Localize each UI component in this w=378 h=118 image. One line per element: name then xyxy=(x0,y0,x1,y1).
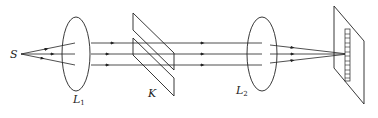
label-lens1: L1 xyxy=(72,93,85,107)
label-lens2: L2 xyxy=(235,84,248,98)
label-source: S xyxy=(10,48,18,61)
glass-plates-k xyxy=(133,13,174,96)
optics-diagram: S L1 K L2 xyxy=(0,0,378,118)
converging-rays xyxy=(270,45,348,63)
label-plates: K xyxy=(147,87,157,100)
interference-fringes xyxy=(345,29,350,81)
parallel-rays xyxy=(91,43,262,65)
source-rays xyxy=(21,43,75,65)
